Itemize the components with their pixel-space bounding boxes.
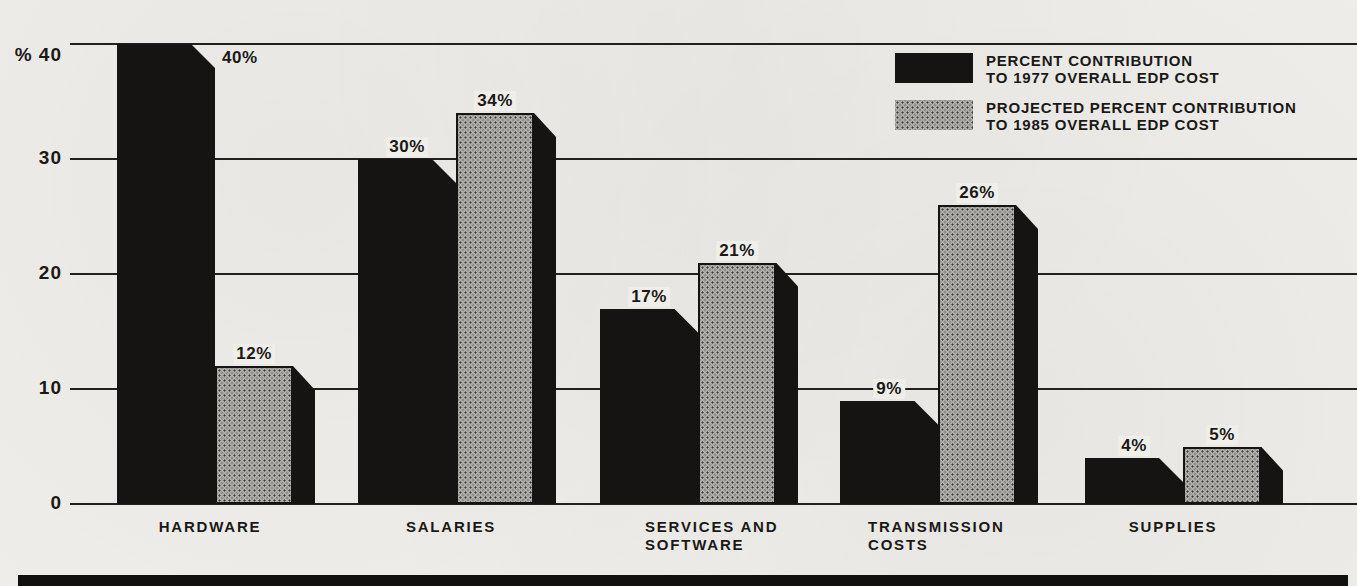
bar-1985-transmission-costs-shadow bbox=[1016, 205, 1038, 504]
scanned-chart-page: % 40302010040%12%HARDWARE30%34%SALARIES1… bbox=[0, 0, 1357, 586]
legend-swatch-1985-icon bbox=[895, 100, 973, 130]
y-axis-tick-label-10: 10 bbox=[0, 378, 62, 398]
value-label-1985-supplies: 5% bbox=[1206, 425, 1238, 445]
bar-1977-supplies bbox=[1085, 458, 1183, 504]
bar-1985-services-and-software bbox=[698, 263, 776, 505]
legend-item-1977: PERCENT CONTRIBUTION TO 1977 OVERALL EDP… bbox=[895, 52, 1297, 86]
category-label-supplies: SUPPLIES bbox=[1129, 518, 1218, 536]
bar-1985-salaries-shadow bbox=[534, 113, 556, 504]
category-label-transmission-costs: TRANSMISSION bbox=[868, 518, 1005, 536]
bar-1977-transmission-costs bbox=[840, 401, 938, 505]
category-label-salaries: SALARIES bbox=[406, 518, 496, 536]
y-axis-tick-label-40: % 40 bbox=[0, 45, 62, 65]
legend-label-1985: PROJECTED PERCENT CONTRIBUTION TO 1985 O… bbox=[986, 99, 1297, 133]
legend-label-1985-line1: PROJECTED PERCENT CONTRIBUTION bbox=[986, 99, 1297, 116]
gridline-40 bbox=[70, 43, 1357, 45]
value-label-1985-salaries: 34% bbox=[474, 91, 516, 111]
legend-item-1985: PROJECTED PERCENT CONTRIBUTION TO 1985 O… bbox=[895, 99, 1297, 133]
bar-1985-supplies bbox=[1183, 447, 1261, 505]
y-axis-tick-label-20: 20 bbox=[0, 263, 62, 283]
bar-1985-salaries bbox=[456, 113, 534, 504]
legend-label-1985-line2: TO 1985 OVERALL EDP COST bbox=[986, 116, 1297, 133]
bar-1985-hardware-shadow bbox=[293, 366, 315, 504]
legend-swatch-1977-icon bbox=[895, 53, 973, 83]
legend-label-1977-line2: TO 1977 OVERALL EDP COST bbox=[986, 69, 1219, 86]
bar-1985-supplies-shadow bbox=[1261, 447, 1283, 505]
value-label-1985-transmission-costs: 26% bbox=[956, 183, 998, 203]
chart-legend: PERCENT CONTRIBUTION TO 1977 OVERALL EDP… bbox=[895, 52, 1297, 146]
bar-1977-hardware bbox=[117, 44, 215, 504]
value-label-1977-services-and-software: 17% bbox=[628, 287, 670, 307]
bar-1977-services-and-software bbox=[600, 309, 698, 505]
y-axis-tick-label-30: 30 bbox=[0, 148, 62, 168]
category-label-hardware: HARDWARE bbox=[159, 518, 262, 536]
category-label-services-and-software-line2: SOFTWARE bbox=[645, 536, 744, 554]
bar-1985-transmission-costs bbox=[938, 205, 1016, 504]
value-label-1977-salaries: 30% bbox=[386, 137, 428, 157]
category-label-services-and-software: SERVICES AND bbox=[645, 518, 778, 536]
category-label-transmission-costs-line2: COSTS bbox=[868, 536, 929, 554]
value-label-1985-services-and-software: 21% bbox=[716, 241, 758, 261]
y-axis-tick-label-0: 0 bbox=[0, 493, 62, 513]
value-label-1977-supplies: 4% bbox=[1118, 436, 1150, 456]
value-label-1985-hardware: 12% bbox=[233, 344, 275, 364]
value-label-1977-hardware: 40% bbox=[219, 48, 261, 68]
legend-label-1977: PERCENT CONTRIBUTION TO 1977 OVERALL EDP… bbox=[986, 52, 1219, 86]
legend-label-1977-line1: PERCENT CONTRIBUTION bbox=[986, 52, 1219, 69]
gridline-30 bbox=[70, 158, 1357, 160]
bar-1985-hardware bbox=[215, 366, 293, 504]
value-label-1977-transmission-costs: 9% bbox=[873, 379, 905, 399]
page-bottom-rule bbox=[18, 575, 1348, 586]
bar-1977-salaries bbox=[358, 159, 456, 504]
bar-1985-services-and-software-shadow bbox=[776, 263, 798, 505]
